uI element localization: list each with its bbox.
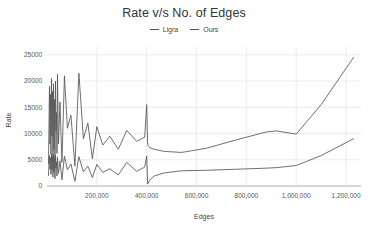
y-tick-label: 0: [38, 182, 42, 189]
x-tick-label: 200,000: [85, 192, 109, 199]
y-axis-title: Rate: [5, 113, 12, 128]
data-series: [49, 57, 354, 183]
x-tick-label: 1,200,000: [332, 192, 361, 199]
y-tick-label: 5000: [28, 156, 43, 163]
x-tick-label: 400,000: [135, 192, 159, 199]
chart-container: Rate v/s No. of Edges Ligra Ours 0500010…: [0, 0, 368, 227]
x-axis-title: Edges: [194, 213, 214, 221]
y-axis-ticks: 0500010000150002000025000: [24, 51, 42, 189]
gridlines: [47, 47, 361, 186]
series-line-ligra: [49, 57, 354, 166]
x-axis-ticks: 200,000400,000600,000800,0001,000,0001,2…: [85, 192, 361, 199]
y-tick-label: 10000: [24, 130, 42, 137]
x-tick-label: 1,000,000: [282, 192, 311, 199]
y-tick-label: 20000: [24, 77, 42, 84]
x-tick-label: 600,000: [185, 192, 209, 199]
y-tick-label: 25000: [24, 51, 42, 58]
x-tick-label: 800,000: [235, 192, 259, 199]
y-tick-label: 15000: [24, 104, 42, 111]
plot-area: 0500010000150002000025000 200,000400,000…: [0, 0, 368, 227]
